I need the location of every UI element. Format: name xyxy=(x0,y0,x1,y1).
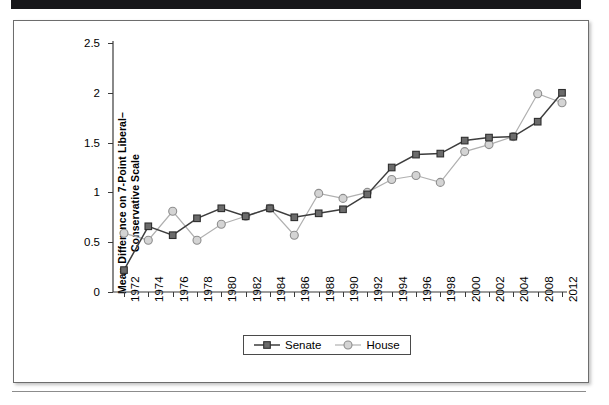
data-point-marker-circle xyxy=(388,176,396,184)
legend-item-senate[interactable]: Senate xyxy=(254,339,321,351)
chart-legend: SenateHouse xyxy=(243,335,411,355)
bottom-rule xyxy=(12,391,586,392)
data-point-marker-square xyxy=(267,205,274,212)
data-point-marker-square xyxy=(218,205,225,212)
legend-swatch-circle-icon xyxy=(335,339,361,351)
data-point-marker-circle xyxy=(534,90,542,98)
series-line xyxy=(124,94,562,240)
data-point-marker-square xyxy=(461,137,468,144)
data-point-marker-square xyxy=(242,213,249,220)
series-line xyxy=(124,93,562,270)
data-point-marker-circle xyxy=(144,236,152,244)
data-point-marker-square xyxy=(194,215,201,222)
data-point-marker-square xyxy=(534,118,541,125)
data-point-marker-circle xyxy=(436,178,444,186)
data-point-marker-square xyxy=(486,134,493,141)
data-point-marker-square xyxy=(315,210,322,217)
page-canvas: Mean Difference on 7-Point Liberal– Cons… xyxy=(0,0,609,405)
data-point-marker-square xyxy=(510,133,517,140)
data-point-marker-circle xyxy=(485,141,493,149)
data-point-marker-square xyxy=(364,191,371,198)
data-point-marker-circle xyxy=(193,236,201,244)
data-point-marker-square xyxy=(169,232,176,239)
data-point-marker-square xyxy=(437,150,444,157)
data-point-marker-circle xyxy=(461,148,469,156)
data-point-marker-square xyxy=(559,90,566,97)
data-point-marker-square xyxy=(291,214,298,221)
line-chart: Mean Difference on 7-Point Liberal– Cons… xyxy=(0,0,609,405)
legend-swatch-square-icon xyxy=(254,339,280,351)
data-point-marker-circle xyxy=(169,207,177,215)
data-point-marker-circle xyxy=(290,231,298,239)
data-point-marker-circle xyxy=(315,189,323,197)
data-point-marker-square xyxy=(413,151,420,158)
data-point-marker-circle xyxy=(339,194,347,202)
data-point-marker-circle xyxy=(412,172,420,180)
series-house xyxy=(120,90,566,244)
data-point-marker-circle xyxy=(558,99,566,107)
data-point-marker-circle xyxy=(120,229,128,237)
legend-label: House xyxy=(366,339,399,351)
data-point-marker-square xyxy=(145,223,152,230)
data-point-marker-circle xyxy=(217,220,225,228)
series-senate xyxy=(121,90,566,274)
data-point-marker-square xyxy=(340,206,347,213)
data-point-marker-square xyxy=(388,164,395,171)
legend-label: Senate xyxy=(285,339,321,351)
legend-item-house[interactable]: House xyxy=(335,339,399,351)
data-point-marker-square xyxy=(121,267,128,274)
